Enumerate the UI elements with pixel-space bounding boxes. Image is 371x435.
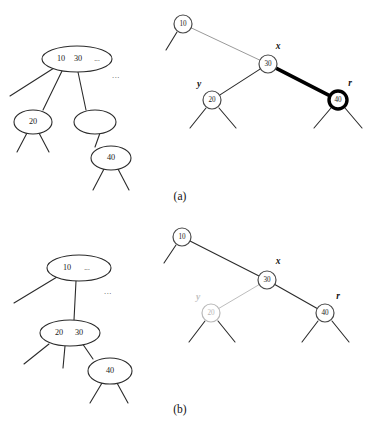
btree-key-b-l-c2-0: 40 [106,366,114,375]
tree-node-label-a-r-10: 10 [179,20,187,28]
tree-node-label-b-r-20: 20 [207,309,215,317]
btree-key-b-l-c1-0: 20 [55,328,63,337]
tree-node-label-a-r-20: 20 [208,96,216,104]
tree-node-var-b-r-30: x [275,256,281,266]
tree-node-var-a-r-30: x [275,41,281,51]
figure-root: 1030...2040...1030x20y40r(a)10...203040.… [0,0,371,435]
tree-node-label-a-r-30: 30 [264,60,272,68]
tree-node-var-a-r-20: y [196,79,202,89]
tree-node-label-a-r-40: 40 [334,96,342,104]
btree-key-a-l-c1-0: 20 [29,117,37,126]
tree-node-var-b-r-40: r [336,291,340,301]
btree-key-a-l-c3-0: 40 [107,153,115,162]
tree-node-var-a-r-40: r [348,78,352,88]
btree-key-b-l-c1-1: 30 [75,328,83,337]
tree-node-label-b-r-30: 30 [263,276,271,284]
btree-key-a-l-root-1: 30 [74,54,82,63]
tree-node-label-b-r-10: 10 [178,233,186,241]
btree-ellipsis-part-b: ... [104,286,112,296]
btree-ellipsis-part-a: ... [112,70,120,80]
btree-node-b-l-root [47,255,111,281]
btree-key-b-l-root-0: 10 [63,263,71,272]
btree-node-a-l-c2 [74,110,116,134]
btree-key-b-l-root-1: ... [84,264,90,272]
tree-node-var-b-r-20: y [195,292,201,302]
btree-node-b-l-c1 [40,320,100,346]
part-caption-part-b: (b) [173,403,187,416]
part-caption-part-a: (a) [174,190,187,203]
btree-key-a-l-root-0: 10 [57,54,65,63]
tree-node-label-b-r-40: 40 [321,309,329,317]
btree-key-a-l-root-2: ... [94,55,100,63]
tree-diagram-canvas: 1030...2040...1030x20y40r(a)10...203040.… [0,0,371,435]
